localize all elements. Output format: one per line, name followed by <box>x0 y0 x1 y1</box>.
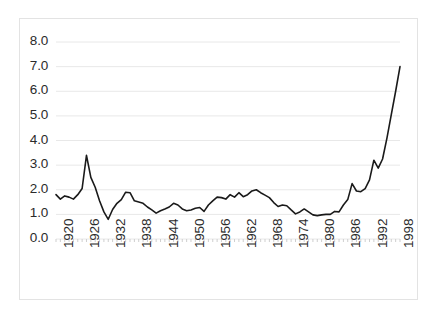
x-axis-tick-label: 1956 <box>218 219 233 248</box>
x-axis-tick-label: 1968 <box>270 219 285 248</box>
chart-plot-area <box>0 0 437 321</box>
y-axis-tick-label: 1.0 <box>14 205 48 220</box>
x-axis-tick-label: 1974 <box>296 219 311 248</box>
y-axis-tick-label: 0.0 <box>14 230 48 245</box>
y-axis-tick-label: 6.0 <box>14 82 48 97</box>
y-axis-tick-label: 7.0 <box>14 58 48 73</box>
x-axis-tick-label: 1920 <box>61 219 76 248</box>
x-axis-tick-label: 1926 <box>87 219 102 248</box>
x-axis-tick-label: 1998 <box>401 219 416 248</box>
y-axis-tick-label: 5.0 <box>14 107 48 122</box>
x-axis-tick-label: 1980 <box>322 219 337 248</box>
x-axis-tick-label: 1986 <box>348 219 363 248</box>
x-axis-tick-label: 1950 <box>192 219 207 248</box>
y-axis-tick-label: 8.0 <box>14 33 48 48</box>
x-axis-tick-label: 1962 <box>244 219 259 248</box>
x-axis-tick-label: 1992 <box>375 219 390 248</box>
x-axis-tick-label: 1938 <box>139 219 154 248</box>
y-axis-tick-label: 4.0 <box>14 132 48 147</box>
y-axis-tick-label: 2.0 <box>14 181 48 196</box>
x-axis-tick-label: 1932 <box>113 219 128 248</box>
gridlines <box>56 42 400 239</box>
data-series-line <box>56 67 400 220</box>
line-chart: 0.01.02.03.04.05.06.07.08.0 192019261932… <box>0 0 437 321</box>
y-axis-tick-label: 3.0 <box>14 156 48 171</box>
x-axis-tick-label: 1944 <box>166 219 181 248</box>
